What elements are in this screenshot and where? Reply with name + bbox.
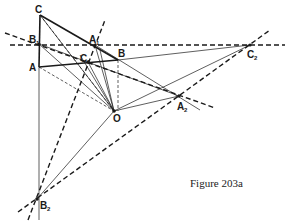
thin-lines-from-o	[37, 15, 250, 220]
label-c2-sub: 2	[254, 55, 258, 61]
label-a: A	[29, 62, 36, 73]
label-c: C	[35, 4, 42, 15]
label-a2-sub: 2	[184, 107, 188, 113]
label-o: O	[113, 113, 121, 124]
label-b: B	[118, 48, 125, 59]
label-b2-sub: 2	[47, 206, 51, 212]
thick-dashed-lines	[5, 20, 285, 220]
triangle-abc	[39, 15, 118, 67]
geometry-figure: C B 1 A A 1 B C 1 O A 2 C 2 B 2	[0, 0, 285, 224]
figure-caption: Figure 203a	[190, 177, 243, 189]
